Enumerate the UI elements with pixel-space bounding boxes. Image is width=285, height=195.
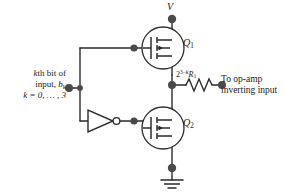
q1-gate-node-dot bbox=[130, 44, 137, 51]
input-label: kth bit of input, bk k = 0, … , 3 bbox=[4, 68, 66, 101]
supply-label: V bbox=[167, 1, 173, 13]
q2-gate-node-dot bbox=[130, 117, 137, 124]
mosfet-q1-symbol bbox=[142, 27, 184, 69]
ground-node-dot bbox=[168, 164, 176, 172]
input-label-line2: input, bk bbox=[4, 79, 66, 90]
supply-terminal-dot bbox=[168, 15, 176, 23]
input-label-line3: k = 0, … , 3 bbox=[4, 90, 66, 101]
input-label-line1: kth bit of bbox=[4, 68, 66, 79]
resistor-zigzag bbox=[186, 79, 212, 91]
output-label-line1: To op-amp bbox=[221, 74, 277, 85]
input-terminal-dot bbox=[65, 84, 73, 92]
output-destination-label: To op-amp inverting input bbox=[221, 74, 277, 96]
resistor-label: 23−kR1 bbox=[176, 69, 196, 80]
mid-node-dot bbox=[168, 81, 176, 89]
circuit-diagram: V Q1 Q2 23−kR1 To op-amp inverting input… bbox=[0, 0, 285, 195]
transistor-q1-label: Q1 bbox=[183, 37, 194, 50]
not-gate-bubble bbox=[113, 118, 120, 125]
output-label-line2: inverting input bbox=[221, 85, 277, 96]
mosfet-q2-symbol bbox=[142, 107, 184, 149]
input-branch-junction-dot bbox=[77, 85, 83, 91]
transistor-q2-label: Q2 bbox=[183, 117, 194, 130]
not-gate-body bbox=[88, 110, 113, 132]
